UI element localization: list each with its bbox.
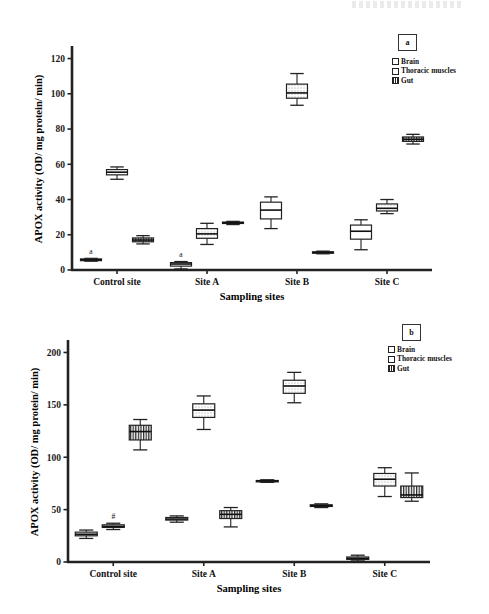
box-body [287,84,308,98]
box-plot [351,220,372,250]
box-plot [129,420,151,450]
box-plot [313,251,334,254]
legend-item-label: Brain [401,58,419,66]
box-plot [377,200,398,214]
y-tick-group: 020406080100120 [51,54,72,275]
legend-item-gut: Gut [388,364,452,373]
y-tick-group: 050100150200 [47,348,68,568]
axes [71,46,432,270]
box-plot [107,167,128,179]
x-tick-group: Control siteSite ASite BSite C [89,562,397,579]
legend-item-brain: Brain [392,57,456,66]
box-plot [166,516,188,522]
y-tick-label: 100 [51,89,66,99]
legend-item-thoracic-muscles: Thoracic muscles [392,67,456,76]
y-tick-label: 0 [60,265,65,275]
legend-item-label: Brain [397,346,415,354]
box-plot [220,508,242,527]
box-body [377,204,398,211]
box-plot [223,221,244,224]
x-tick-label: Site C [372,569,397,579]
box-plot [193,396,215,430]
legend-swatch-vbars-icon [392,77,399,84]
y-tick-label: 20 [56,230,66,240]
box-plot [310,504,332,508]
y-tick-label: 50 [52,505,62,515]
x-tick-label: Site A [192,569,216,579]
series-brain [75,480,369,561]
box-plot [133,236,154,244]
x-tick-label: Control site [89,569,137,579]
box-plot [256,480,278,483]
box-plot [347,555,369,561]
y-tick-label: 0 [56,557,61,567]
legend-swatch-dots-icon [392,68,399,75]
legend-item-gut: Gut [392,76,456,85]
significance-annotation: a [89,247,93,256]
box-body [129,425,151,440]
x-tick-label: Site B [285,277,310,287]
x-axis-title: Sampling sites [217,583,281,594]
legend-item-label: Gut [397,365,409,373]
panel-b: 050100150200Control siteSite ASite BSite… [0,310,489,614]
y-tick-label: 120 [51,54,66,64]
legend-item-label: Thoracic muscles [397,355,452,363]
panel-b-tag: b [402,324,421,341]
legend-swatch-vbars-icon [388,365,395,372]
y-tick-label: 80 [56,124,66,134]
significance-annotation: # [111,512,115,521]
y-axis-title: APOX activity (OD/ mg protein/ min) [29,367,41,536]
y-tick-label: 40 [56,195,66,205]
legend-swatch-plain-icon [388,346,395,353]
axes [67,340,430,562]
legend-item-label: Thoracic muscles [401,67,456,75]
y-axis-title: APOX activity (OD/ mg protein/ min) [33,74,45,243]
box-plot [261,197,282,229]
figure-page: 020406080100120Control siteSite ASite BS… [0,0,489,614]
y-tick-label: 100 [47,453,62,463]
legend-swatch-dots-icon [388,356,395,363]
legend-item-thoracic-muscles: Thoracic muscles [388,355,452,364]
x-tick-label: Control site [93,277,141,287]
series-thoracic-muscles [107,74,398,245]
legend-item-label: Gut [401,77,413,85]
y-tick-label: 150 [47,400,62,410]
series-gut [133,134,424,253]
panel-b-legend: BrainThoracic musclesGut [388,345,452,374]
panel-a-tag: a [398,34,417,51]
box-plot: a [171,250,192,269]
box-body [351,225,372,239]
x-tick-label: Site C [375,277,400,287]
x-tick-label: Site B [282,569,307,579]
panel-a: 020406080100120Control siteSite ASite BS… [0,0,489,310]
x-tick-label: Site A [195,277,219,287]
y-tick-label: 200 [47,348,62,358]
series-thoracic-muscles: # [102,372,396,529]
box-plot: # [102,512,124,530]
series-brain: aa [81,197,372,269]
x-tick-group: Control siteSite ASite BSite C [93,270,399,287]
box-plot [287,74,308,106]
box-plot [401,473,423,501]
legend-swatch-plain-icon [392,58,399,65]
box-plot [283,372,305,402]
legend-item-brain: Brain [388,345,452,354]
y-tick-label: 60 [56,160,66,170]
box-plot [374,468,396,497]
panel-a-legend: BrainThoracic musclesGut [392,57,456,86]
box-plot [403,134,424,144]
box-body [401,486,423,498]
box-plot: a [81,247,102,261]
x-axis-title: Sampling sites [220,291,284,302]
box-plot [197,223,218,244]
significance-annotation: a [179,250,183,259]
box-plot [75,530,97,538]
